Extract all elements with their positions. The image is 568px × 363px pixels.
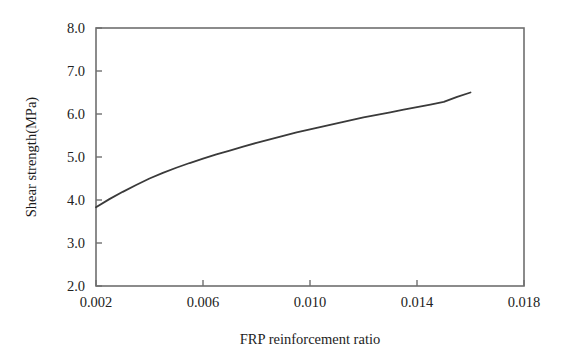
y-tick-label: 8.0 bbox=[67, 20, 85, 36]
chart-figure: 2.03.04.05.06.07.08.0 0.0020.0060.0100.0… bbox=[0, 0, 568, 363]
y-axis-title: Shear strength(MPa) bbox=[23, 97, 40, 218]
x-tick-label: 0.014 bbox=[401, 294, 434, 310]
y-tick-label: 7.0 bbox=[67, 63, 85, 79]
x-tick-label: 0.010 bbox=[294, 294, 327, 310]
y-tick-label: 2.0 bbox=[67, 278, 85, 294]
x-tick-label: 0.006 bbox=[187, 294, 220, 310]
chart-canvas: 2.03.04.05.06.07.08.0 0.0020.0060.0100.0… bbox=[0, 0, 568, 363]
y-tick-label: 6.0 bbox=[67, 106, 85, 122]
y-tick-label: 3.0 bbox=[67, 235, 85, 251]
x-tick-label: 0.002 bbox=[80, 294, 113, 310]
data-series-line bbox=[96, 93, 471, 208]
x-axis-tick-labels: 0.0020.0060.0100.0140.018 bbox=[80, 294, 541, 310]
y-axis-tick-labels: 2.03.04.05.06.07.08.0 bbox=[67, 20, 85, 294]
x-axis-title: FRP reinforcement ratio bbox=[240, 331, 380, 347]
x-axis-ticks bbox=[96, 280, 524, 286]
y-tick-label: 5.0 bbox=[67, 149, 85, 165]
y-axis-ticks bbox=[96, 28, 102, 286]
y-tick-label: 4.0 bbox=[67, 192, 85, 208]
x-tick-label: 0.018 bbox=[508, 294, 541, 310]
plot-frame bbox=[96, 28, 524, 286]
